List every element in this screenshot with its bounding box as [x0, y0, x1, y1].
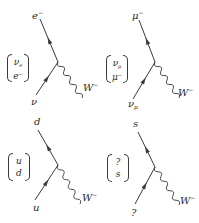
doublet-lower-entry: d [8, 168, 30, 178]
muon-boson-label: W− [178, 85, 193, 98]
electron-w-boson-wavy-line [57, 62, 82, 98]
strange-bottom-particle-label: ? [131, 208, 136, 218]
doublet-superscript: − [19, 71, 23, 77]
strange-incoming-arrow-icon [141, 182, 146, 189]
diagram-lines [0, 0, 199, 223]
electron-boson-label-superscript: − [93, 81, 98, 88]
doublet-subscript: μ [118, 63, 121, 69]
muon-outgoing-arrow-icon [146, 38, 150, 45]
electron-bottom-particle-label: ν [31, 97, 37, 107]
electron-bottom-particle-label-symbol: ν [31, 96, 37, 107]
doublet-subscript: e [19, 62, 22, 68]
doublet-superscript: − [118, 72, 122, 78]
strange-top-particle-label: s [133, 119, 138, 129]
doublet-upper-entry: ? [107, 157, 129, 167]
electron-boson-label: W− [83, 80, 98, 93]
muon-doublet: νμμ− [106, 55, 128, 83]
electron-doublet: νee− [7, 54, 29, 82]
electron-incoming-arrow-icon [43, 76, 49, 83]
doublet-symbol: ? [116, 157, 121, 167]
electron-outgoing-arrow-icon [48, 37, 53, 44]
down-bottom-particle-label: u [33, 203, 39, 213]
strange-boson-label-symbol: W [180, 195, 190, 206]
muon-bottom-particle-label: νμ [128, 99, 138, 112]
muon-boson-label-superscript: − [188, 86, 193, 93]
doublet-lower-entry: μ− [106, 70, 128, 82]
doublet-upper-entry: u [8, 156, 30, 166]
strange-doublet: ?s [107, 154, 129, 182]
muon-bottom-particle-label-subscript: μ [134, 103, 138, 110]
strange-outgoing-arrow-icon [145, 146, 150, 153]
down-bottom-particle-label-symbol: u [33, 202, 39, 213]
strange-top-particle-label-symbol: s [133, 118, 138, 129]
down-top-particle-label: d [34, 117, 40, 127]
down-boson-label: W− [82, 190, 97, 203]
muon-w-boson-wavy-line [154, 62, 179, 98]
strange-boson-label: W− [180, 193, 195, 206]
doublet-symbol: u [16, 156, 22, 166]
down-outgoing-arrow-icon [46, 144, 51, 151]
strange-w-boson-wavy-line [154, 167, 179, 205]
doublet-symbol: d [16, 168, 22, 178]
muon-top-particle-label-superscript: − [139, 9, 144, 16]
electron-top-particle-label-superscript: − [38, 9, 43, 16]
muon-top-particle-label: μ− [132, 8, 144, 21]
down-boson-label-symbol: W [82, 192, 92, 203]
electron-boson-label-symbol: W [83, 82, 93, 93]
down-top-particle-label-symbol: d [34, 116, 40, 127]
muon-incoming-arrow-icon [140, 77, 145, 84]
down-doublet: ud [8, 153, 30, 181]
down-incoming-arrow-icon [43, 180, 49, 187]
feynman-vertex-diagram: e−νW−νee−μ−νμW−νμμ−duW−uds?W−?s [0, 0, 199, 223]
strange-boson-label-superscript: − [190, 194, 195, 201]
electron-top-particle-label: e− [32, 8, 43, 21]
down-boson-label-superscript: − [92, 191, 97, 198]
doublet-lower-entry: e− [7, 69, 29, 81]
doublet-symbol: s [116, 169, 121, 179]
down-w-boson-wavy-line [57, 165, 81, 204]
strange-bottom-particle-label-symbol: ? [131, 207, 136, 218]
muon-boson-label-symbol: W [178, 87, 188, 98]
doublet-lower-entry: s [107, 169, 129, 179]
